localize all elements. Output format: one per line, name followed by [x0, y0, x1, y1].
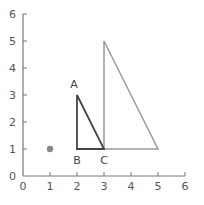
diagram-canvas: 01234560123456 ABC	[0, 0, 204, 205]
vertex-label-a: A	[70, 78, 78, 91]
y-tick-label: 2	[9, 116, 16, 129]
y-tick-label: 3	[9, 89, 16, 102]
x-tick-label: 0	[20, 180, 27, 193]
vertex-label-b: B	[73, 154, 81, 167]
y-tick-label: 0	[9, 170, 16, 183]
x-tick-label: 6	[182, 180, 189, 193]
center-point	[47, 146, 53, 152]
y-tick-label: 4	[9, 62, 16, 75]
vertex-label-c: C	[100, 154, 108, 167]
shapes	[47, 41, 158, 152]
y-tick-label: 1	[9, 143, 16, 156]
labels: ABC	[70, 78, 108, 167]
x-tick-label: 5	[155, 180, 162, 193]
y-tick-label: 6	[9, 8, 16, 21]
x-tick-label: 3	[101, 180, 108, 193]
x-tick-label: 2	[74, 180, 81, 193]
x-tick-label: 4	[128, 180, 135, 193]
x-tick-label: 1	[47, 180, 54, 193]
small-triangle	[77, 95, 104, 149]
axes: 01234560123456	[9, 8, 189, 193]
large-triangle	[104, 41, 158, 149]
y-tick-label: 5	[9, 35, 16, 48]
